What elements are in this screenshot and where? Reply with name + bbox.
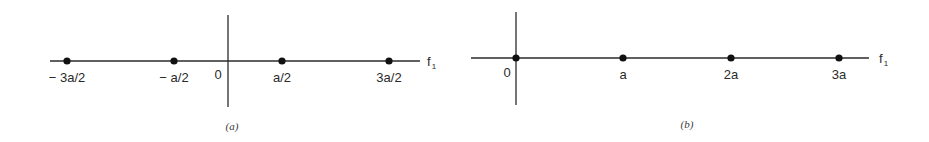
axis-label-subscript: 1: [432, 62, 437, 71]
lattice-point: [512, 54, 519, 61]
lattice-point: [727, 54, 734, 61]
point-label: a: [619, 67, 627, 82]
point-label: − a/2: [159, 70, 188, 85]
lattice-point: [385, 57, 392, 64]
panel-a-symmetric-lattice: − 3a/2− a/2a/23a/20f1(a): [49, 15, 437, 133]
origin-label: 0: [503, 65, 510, 80]
lattice-point: [278, 57, 285, 64]
panel-caption: (a): [226, 120, 239, 133]
lattice-point: [170, 57, 177, 64]
panel-caption: (b): [681, 118, 694, 131]
axis-label-f1: f1: [879, 51, 889, 68]
point-label: 3a/2: [376, 70, 401, 85]
lattice-point: [835, 54, 842, 61]
point-label: − 3a/2: [49, 70, 86, 85]
point-label: 3a: [832, 67, 847, 82]
axis-label-f1: f1: [427, 54, 437, 71]
lattice-point: [619, 54, 626, 61]
point-label: 2a: [724, 67, 739, 82]
panel-b-origin-lattice: a2a3a0f1(b): [471, 12, 889, 131]
lattice-point: [63, 57, 70, 64]
axis-label-subscript: 1: [884, 59, 889, 68]
frequency-lattice-diagram: − 3a/2− a/2a/23a/20f1(a) a2a3a0f1(b): [0, 0, 929, 142]
point-label: a/2: [273, 70, 291, 85]
origin-label: 0: [214, 67, 221, 82]
